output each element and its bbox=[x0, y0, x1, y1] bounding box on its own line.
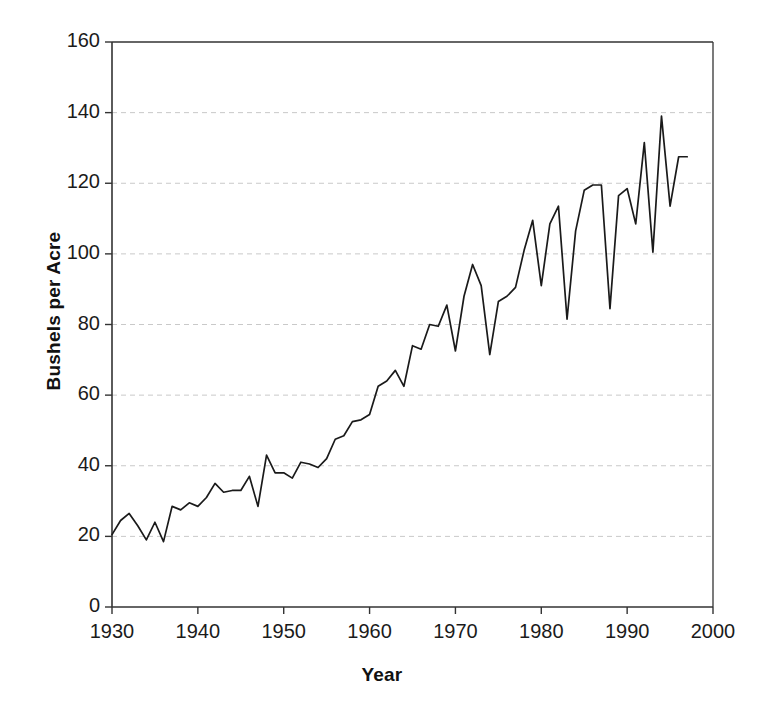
y-axis-title: Bushels per Acre bbox=[43, 211, 65, 411]
x-tick-label: 1950 bbox=[239, 620, 329, 643]
y-tick-label: 0 bbox=[45, 594, 100, 617]
line-chart-figure: 020406080100120140160 193019401950196019… bbox=[0, 0, 764, 707]
x-tick-label: 1970 bbox=[410, 620, 500, 643]
x-tick-label: 1940 bbox=[153, 620, 243, 643]
x-tick-label: 1930 bbox=[67, 620, 157, 643]
x-tick-label: 1990 bbox=[582, 620, 672, 643]
y-tick-label: 120 bbox=[45, 170, 100, 193]
y-tick-label: 20 bbox=[45, 523, 100, 546]
y-axis-title-text: Bushels per Acre bbox=[43, 232, 65, 391]
x-tick-marks bbox=[112, 607, 713, 614]
x-axis-title-text: Year bbox=[362, 664, 403, 686]
y-tick-label: 40 bbox=[45, 453, 100, 476]
plot-area bbox=[0, 0, 764, 707]
chart-page: 020406080100120140160 193019401950196019… bbox=[0, 0, 764, 707]
data-series-line bbox=[112, 116, 687, 542]
x-tick-label: 1980 bbox=[496, 620, 586, 643]
x-tick-label: 1960 bbox=[325, 620, 415, 643]
y-tick-label: 140 bbox=[45, 100, 100, 123]
y-tick-label: 160 bbox=[45, 29, 100, 52]
gridlines-group bbox=[112, 113, 713, 537]
y-tick-marks bbox=[105, 42, 112, 607]
x-tick-label: 2000 bbox=[668, 620, 758, 643]
x-axis-title: Year bbox=[0, 664, 764, 686]
